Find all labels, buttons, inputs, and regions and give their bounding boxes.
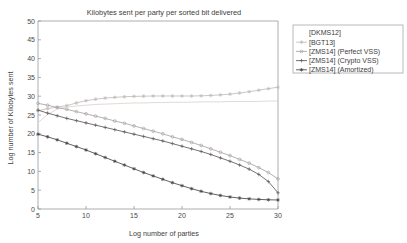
data-point-marker	[142, 171, 146, 175]
data-point-marker	[46, 107, 50, 111]
data-point-marker	[209, 94, 213, 98]
data-point-marker	[142, 135, 146, 139]
legend-label-1[interactable]: [BGT13]	[309, 39, 335, 47]
data-point-marker	[123, 130, 127, 134]
y-tick-label: 10	[27, 168, 35, 175]
legend-label-4[interactable]: [ZMS14] (Amortized)	[309, 66, 374, 74]
x-tick-label: 15	[130, 212, 138, 219]
data-point-marker	[36, 108, 40, 112]
legend-marker-sample	[300, 68, 304, 72]
data-point-marker	[113, 128, 117, 132]
data-point-marker	[65, 104, 69, 108]
data-point-marker	[94, 123, 98, 127]
data-point-marker	[219, 156, 223, 160]
data-point-marker	[142, 94, 146, 98]
data-point-marker	[238, 91, 242, 95]
data-point-marker	[84, 121, 88, 125]
data-point-marker	[199, 94, 203, 98]
data-point-marker	[84, 148, 88, 152]
data-point-marker	[219, 93, 223, 97]
data-point-marker	[247, 197, 251, 201]
data-point-marker	[180, 184, 184, 188]
data-point-marker	[276, 85, 280, 89]
data-point-marker	[228, 92, 232, 96]
data-point-marker	[228, 159, 232, 163]
line-chart-canvas: Kilobytes sent per party per sorted bit …	[0, 0, 407, 243]
series-1	[36, 85, 280, 112]
data-point-marker	[113, 159, 117, 163]
data-point-marker	[55, 138, 59, 142]
data-point-marker	[171, 94, 175, 98]
series-line	[38, 87, 278, 111]
chart-title: Kilobytes sent per party per sorted bit …	[87, 8, 241, 17]
data-point-marker	[75, 145, 79, 149]
data-point-marker	[151, 94, 155, 98]
data-point-marker	[199, 190, 203, 194]
data-point-marker	[103, 126, 107, 130]
x-axis-ticks: 51015202530	[36, 206, 282, 219]
data-point-marker	[180, 94, 184, 98]
data-point-marker	[257, 198, 261, 202]
data-point-marker	[161, 139, 165, 143]
data-point-marker	[113, 96, 117, 100]
data-point-marker	[94, 97, 98, 101]
series-line	[38, 134, 278, 200]
data-point-marker	[171, 142, 175, 146]
data-point-marker	[267, 87, 271, 91]
data-point-marker	[132, 95, 136, 99]
data-series-layer	[36, 85, 280, 201]
data-point-marker	[247, 90, 251, 94]
data-point-marker	[75, 101, 79, 105]
y-tick-label: 35	[27, 74, 35, 81]
legend-marker-sample	[300, 40, 304, 44]
y-tick-label: 45	[27, 36, 35, 43]
chart-figure: Kilobytes sent per party per sorted bit …	[0, 0, 407, 243]
data-point-marker	[65, 141, 69, 145]
data-point-marker	[94, 152, 98, 156]
data-point-marker	[190, 187, 194, 191]
legend-label-2[interactable]: [ZMS14] (Perfect VSS)	[309, 48, 380, 56]
data-point-marker	[267, 198, 271, 202]
data-point-marker	[123, 95, 127, 99]
data-point-marker	[75, 119, 79, 123]
data-point-marker	[199, 150, 203, 154]
series-3	[36, 108, 280, 194]
data-point-marker	[151, 174, 155, 178]
chart-legend[interactable]: [DKMS12][BGT13][ZMS14] (Perfect VSS)[ZMS…	[293, 25, 403, 74]
x-tick-label: 5	[36, 212, 40, 219]
data-point-marker	[209, 192, 213, 196]
x-axis-label: Log number of parties	[129, 229, 199, 238]
series-4	[36, 132, 280, 201]
legend-label-0[interactable]: [DKMS12]	[309, 29, 341, 37]
data-point-marker	[132, 132, 136, 136]
data-point-marker	[219, 194, 223, 198]
data-point-marker	[46, 111, 50, 115]
data-point-marker	[103, 156, 107, 160]
data-point-marker	[103, 96, 107, 100]
x-tick-label: 30	[274, 212, 282, 219]
y-tick-label: 50	[27, 18, 35, 25]
data-point-marker	[132, 167, 136, 171]
data-point-marker	[65, 117, 69, 121]
legend-label-3[interactable]: [ZMS14] (Crypto VSS)	[309, 57, 379, 65]
series-2	[37, 102, 280, 180]
y-tick-label: 20	[27, 130, 35, 137]
data-point-marker	[161, 94, 165, 98]
data-point-marker	[161, 177, 165, 181]
data-point-marker	[171, 181, 175, 185]
y-tick-label: 15	[27, 149, 35, 156]
series-line	[38, 110, 278, 193]
data-point-marker	[46, 135, 50, 139]
data-point-marker	[190, 147, 194, 151]
data-point-marker	[276, 198, 280, 202]
data-point-marker	[180, 144, 184, 148]
y-tick-label: 25	[27, 112, 35, 119]
data-point-marker	[190, 94, 194, 98]
data-point-marker	[123, 163, 127, 167]
x-tick-label: 10	[82, 212, 90, 219]
y-tick-label: 5	[31, 187, 35, 194]
data-point-marker	[238, 163, 242, 167]
data-point-marker	[228, 195, 232, 199]
y-axis-ticks: 05101520253035404550	[27, 18, 41, 213]
x-tick-label: 20	[178, 212, 186, 219]
